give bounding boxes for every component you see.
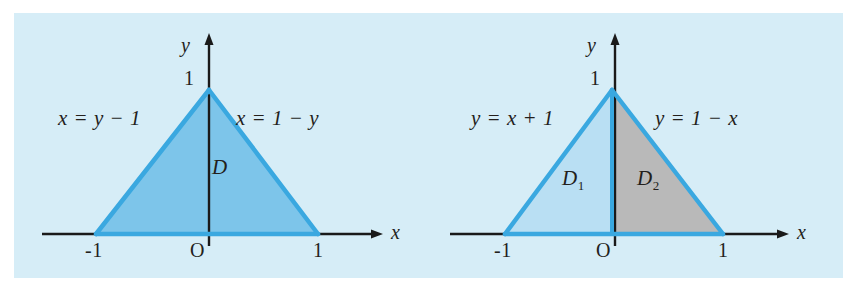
right-panel-region-D2-base: D xyxy=(637,166,653,190)
right-panel-region-D1-subscript: 1 xyxy=(578,178,585,193)
left-panel-y-axis-arrowhead xyxy=(205,33,214,45)
left-panel-right-edge-equation: x = 1 − y xyxy=(236,108,319,129)
left-panel-y-tick-1: 1 xyxy=(184,68,195,88)
left-panel-region-D-label: D xyxy=(212,157,228,178)
right-panel-x-tick-minus-1: -1 xyxy=(494,240,512,260)
left-panel-left-edge-equation: x = y − 1 xyxy=(58,108,141,129)
left-panel-y-axis-label: y xyxy=(181,35,190,55)
left-panel-x-tick-minus-1: -1 xyxy=(85,240,103,260)
left-panel-graphics xyxy=(42,33,383,246)
left-panel-origin-label: O xyxy=(190,240,205,260)
right-panel-x-tick-1: 1 xyxy=(718,240,729,260)
figure-root: y x 1 -1 1 O x = y − 1 x = 1 − y D y x 1… xyxy=(0,0,857,295)
right-panel-y-axis-label: y xyxy=(587,35,596,55)
right-panel-region-D2-label: D2 xyxy=(637,168,659,192)
left-panel-x-axis-arrowhead xyxy=(371,230,383,239)
right-panel-region-D1-label: D1 xyxy=(562,168,584,192)
right-panel-graphics xyxy=(450,33,789,246)
right-panel-y-tick-1: 1 xyxy=(590,68,601,88)
right-panel-region-D2-subscript: 2 xyxy=(653,178,660,193)
right-panel-region-D1-base: D xyxy=(562,166,578,190)
left-panel-x-tick-1: 1 xyxy=(313,240,324,260)
right-panel-right-edge-equation: y = 1 − x xyxy=(655,108,738,129)
left-panel-x-axis-label: x xyxy=(391,222,400,242)
right-panel-origin-label: O xyxy=(596,240,611,260)
right-panel-y-axis-arrowhead xyxy=(611,33,620,45)
right-panel-left-edge-equation: y = x + 1 xyxy=(471,108,554,129)
right-panel-x-axis-arrowhead xyxy=(777,230,789,239)
right-panel-x-axis-label: x xyxy=(797,222,806,242)
